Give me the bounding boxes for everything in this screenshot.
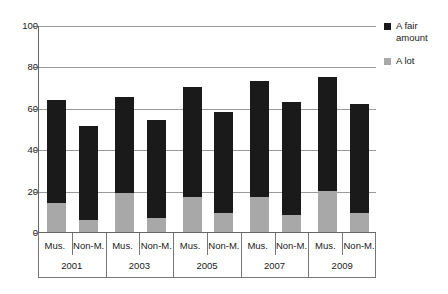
x-tick-label-non-m-2009: Non-M. xyxy=(342,237,376,255)
plot-area xyxy=(38,26,376,233)
category-divider xyxy=(241,233,242,255)
bar-mus-2001 xyxy=(47,25,66,232)
legend-item-label: A lot xyxy=(396,55,448,67)
group-divider xyxy=(173,255,174,277)
bar-segment-a-fair-amount xyxy=(318,77,337,191)
group-divider xyxy=(241,255,242,277)
bar-segment-a-lot xyxy=(183,197,202,232)
category-divider xyxy=(106,233,107,255)
group-divider xyxy=(38,255,39,277)
x-tick-label-mus-2001: Mus. xyxy=(38,237,72,255)
bar-segment-a-fair-amount xyxy=(282,102,301,216)
bar-non-m-2005 xyxy=(214,25,233,232)
bar-non-m-2001 xyxy=(79,25,98,232)
x-group-label-2003: 2003 xyxy=(106,257,174,275)
bar-non-m-2003 xyxy=(147,25,166,232)
bar-segment-a-lot xyxy=(318,191,337,232)
bar-mus-2003 xyxy=(115,25,134,232)
x-tick-label-non-m-2007: Non-M. xyxy=(275,237,309,255)
bar-mus-2009 xyxy=(318,25,337,232)
x-tick-label-mus-2005: Mus. xyxy=(173,237,207,255)
category-divider xyxy=(72,233,73,255)
group-divider xyxy=(375,255,376,277)
legend-item-a-lot[interactable]: A lot xyxy=(384,55,448,67)
bar-segment-a-fair-amount xyxy=(47,100,66,204)
bar-segment-a-fair-amount xyxy=(115,97,134,192)
bar-segment-a-fair-amount xyxy=(183,87,202,197)
category-divider xyxy=(139,233,140,255)
y-axis: 020406080100 xyxy=(0,0,38,294)
category-divider xyxy=(342,233,343,255)
category-divider xyxy=(375,233,376,255)
bar-mus-2007 xyxy=(250,25,269,232)
bar-segment-a-lot xyxy=(115,193,134,232)
bar-non-m-2009 xyxy=(350,25,369,232)
bar-segment-a-lot xyxy=(214,213,233,232)
bar-segment-a-lot xyxy=(350,213,369,232)
bar-segment-a-fair-amount xyxy=(214,112,233,213)
bar-segment-a-lot xyxy=(282,215,301,232)
x-axis-outer-baseline xyxy=(38,277,376,278)
x-group-label-2007: 2007 xyxy=(241,257,309,275)
stacked-bar-chart: 020406080100 Mus.Non-M.2001Mus.Non-M.200… xyxy=(0,0,448,294)
group-divider xyxy=(106,255,107,277)
x-tick-label-mus-2009: Mus. xyxy=(308,237,342,255)
x-tick-label-mus-2003: Mus. xyxy=(106,237,140,255)
legend-item-a-fair-amount[interactable]: A fair amount xyxy=(384,20,448,43)
x-group-label-2005: 2005 xyxy=(173,257,241,275)
bar-segment-a-fair-amount xyxy=(350,104,369,214)
x-group-label-2001: 2001 xyxy=(38,257,106,275)
category-divider xyxy=(207,233,208,255)
category-divider xyxy=(275,233,276,255)
x-axis: Mus.Non-M.2001Mus.Non-M.2003Mus.Non-M.20… xyxy=(38,233,376,279)
bar-segment-a-lot xyxy=(47,203,66,232)
legend: A fair amountA lot xyxy=(384,20,448,79)
x-tick-label-mus-2007: Mus. xyxy=(241,237,275,255)
x-tick-label-non-m-2005: Non-M. xyxy=(207,237,241,255)
legend-item-label: A fair amount xyxy=(396,20,448,43)
gray-square-icon xyxy=(384,58,391,65)
group-divider xyxy=(308,255,309,277)
x-group-label-2009: 2009 xyxy=(308,257,376,275)
bar-segment-a-fair-amount xyxy=(147,120,166,217)
bar-segment-a-lot xyxy=(147,218,166,232)
category-divider xyxy=(173,233,174,255)
x-tick-label-non-m-2003: Non-M. xyxy=(139,237,173,255)
bar-mus-2005 xyxy=(183,25,202,232)
bar-segment-a-lot xyxy=(250,197,269,232)
bar-segment-a-fair-amount xyxy=(79,126,98,219)
category-divider xyxy=(308,233,309,255)
x-tick-label-non-m-2001: Non-M. xyxy=(72,237,106,255)
bar-non-m-2007 xyxy=(282,25,301,232)
category-divider xyxy=(38,233,39,255)
bar-segment-a-fair-amount xyxy=(250,81,269,197)
black-square-icon xyxy=(384,23,391,30)
bar-segment-a-lot xyxy=(79,220,98,232)
